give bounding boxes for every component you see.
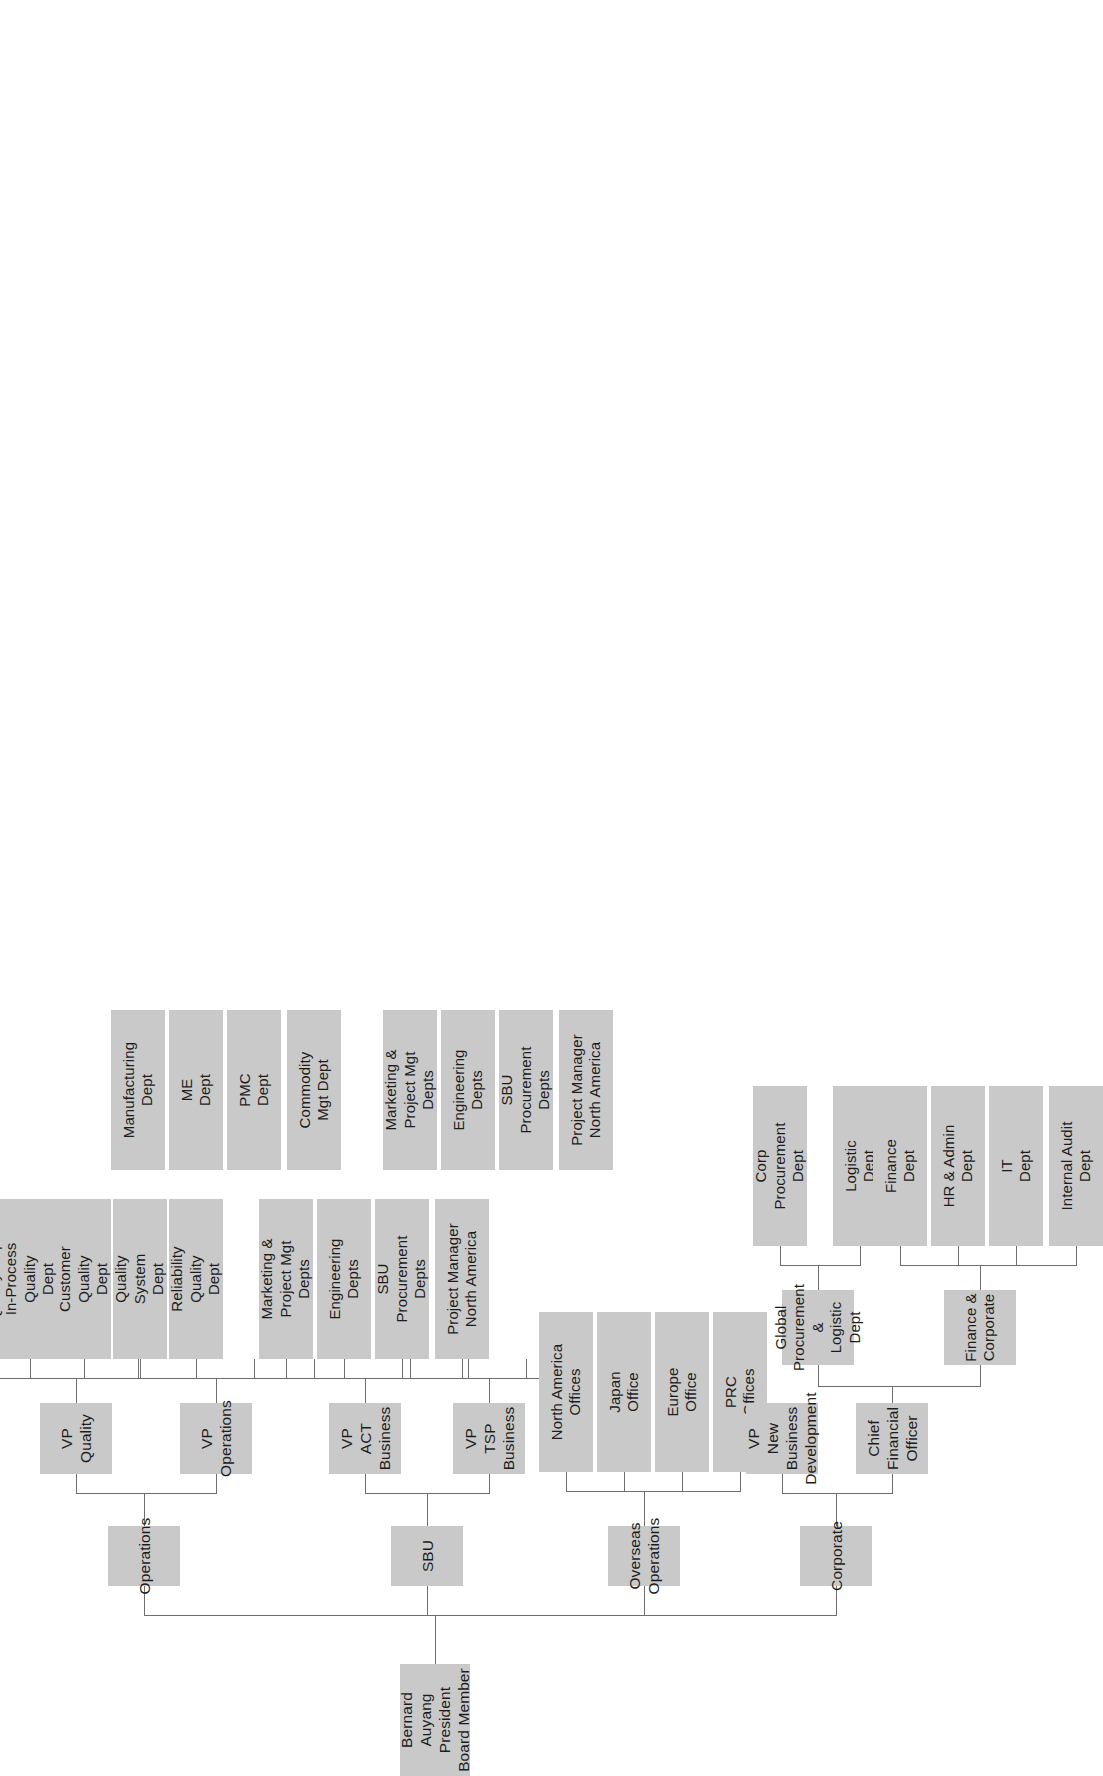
node-vp-tsp-business[interactable]: VP TSP Business	[453, 1403, 525, 1474]
edge-ops-to-quality	[76, 1474, 77, 1494]
node-finance-corporate[interactable]: Finance & Corporate	[944, 1290, 1016, 1365]
edge-global-c2	[860, 1246, 861, 1266]
edge-cfo-bus	[818, 1386, 980, 1387]
edge-fc-c4	[1076, 1246, 1077, 1266]
node-global-procurement-logistic-dept[interactable]: Global Procurement & Logistic Dept	[782, 1290, 854, 1365]
edge-vpq-down	[76, 1379, 77, 1403]
node-tsp-engineering[interactable]: Engineering Depts	[441, 1010, 495, 1170]
edge-global-c1	[780, 1246, 781, 1266]
node-manufacturing-department[interactable]: Manufacturing Dept	[111, 1010, 165, 1170]
node-commodity-mgt-dept[interactable]: Commodity Mgt Dept	[287, 1010, 341, 1170]
node-north-america-offices[interactable]: North America Offices	[539, 1312, 593, 1472]
node-internal-audit-dept[interactable]: Internal Audit Dept	[1049, 1086, 1103, 1246]
node-tsp-project-manager[interactable]: Project Manager North America	[559, 1010, 613, 1170]
node-chief-financial-officer[interactable]: Chief Financial Officer	[856, 1403, 928, 1474]
edge-global-bus	[780, 1265, 860, 1266]
node-reliability-quality[interactable]: Reliability Quality Dept	[169, 1199, 223, 1359]
edge-ov-c2	[624, 1472, 625, 1492]
node-corp-procurement-dept[interactable]: Corp Procurement Dept	[753, 1086, 807, 1246]
edge-root-to-spine	[435, 1616, 436, 1664]
edge-ops-to-vpops	[216, 1474, 217, 1494]
edge-tsp-c1	[410, 1359, 411, 1379]
node-vp-quality[interactable]: VP Quality	[40, 1403, 112, 1474]
edge-sbu-to-act	[365, 1474, 366, 1494]
edge-fc-c2	[958, 1246, 959, 1266]
edge-act-down	[365, 1379, 366, 1403]
edge-act-c1	[286, 1359, 287, 1379]
edge-spine-main	[144, 1615, 836, 1616]
node-act-project-manager[interactable]: Project Manager North America	[435, 1199, 489, 1359]
node-vp-operations[interactable]: VP Operations	[180, 1403, 252, 1474]
edge-fc-c3	[1016, 1246, 1017, 1266]
edge-sbu-down	[427, 1494, 428, 1526]
edge-cfo-to-financecorp	[980, 1365, 981, 1387]
edge-ov-c4	[740, 1472, 741, 1492]
node-tsp-marketing-box[interactable]: Marketing & Project Mgt Depts	[383, 1010, 437, 1170]
edge-act-c3	[402, 1359, 403, 1379]
edge-sbu-bus	[365, 1493, 489, 1494]
edge-tsp-c2	[468, 1359, 469, 1379]
node-europe-office[interactable]: Europe Office	[655, 1312, 709, 1472]
node-customer-quality[interactable]: Customer Quality Dept	[57, 1199, 111, 1359]
node-operations[interactable]: Operations	[108, 1526, 180, 1586]
edge-financecorp-down	[980, 1266, 981, 1290]
node-me-dept[interactable]: ME Dept	[169, 1010, 223, 1170]
node-act-marketing[interactable]: Marketing & Project Mgt Depts	[259, 1199, 313, 1359]
edge-corporate-to-cfo	[892, 1474, 893, 1494]
edge-sbu-to-tsp	[489, 1474, 490, 1494]
node-pmc-dept[interactable]: PMC Dept	[227, 1010, 281, 1170]
node-hr-admin-dept[interactable]: HR & Admin Dept	[931, 1086, 985, 1246]
edge-vpops-c3	[254, 1359, 255, 1379]
edge-corporate-bus	[782, 1493, 892, 1494]
edge-tsp-down	[489, 1379, 490, 1403]
node-finance-dept[interactable]: Finance Dept	[873, 1086, 927, 1246]
node-it-dept[interactable]: IT Dept	[989, 1086, 1043, 1246]
node-sbu[interactable]: SBU	[391, 1526, 463, 1586]
node-japan-office[interactable]: Japan Office	[597, 1312, 651, 1472]
edge-ov-c3	[682, 1472, 683, 1492]
node-quality-system[interactable]: Quality System Dept	[113, 1199, 167, 1359]
edge-vpq-c4	[140, 1359, 141, 1379]
edge-spine-sbu	[427, 1586, 428, 1616]
edge-act-c4	[462, 1359, 463, 1379]
node-act-sbu-procurement[interactable]: SBU Procurement Depts	[375, 1199, 429, 1359]
edge-vpq-c5	[196, 1359, 197, 1379]
edge-financecorp-bus	[900, 1265, 1076, 1266]
edge-vpq-c2	[30, 1359, 31, 1379]
edge-vpq-c3	[84, 1359, 85, 1379]
node-corporate[interactable]: Corporate	[800, 1526, 872, 1586]
node-vp-new-business-development[interactable]: VP New Business Development	[746, 1403, 818, 1474]
edge-act-c2	[344, 1359, 345, 1379]
node-act-engineering[interactable]: Engineering Depts	[317, 1199, 371, 1359]
edge-operations-bus	[76, 1493, 216, 1494]
edge-vpops-c4	[314, 1359, 315, 1379]
edge-ov-c1	[566, 1472, 567, 1492]
edge-overseas-bus	[566, 1491, 740, 1492]
edge-tsp-c3	[526, 1359, 527, 1379]
node-in-process-quality[interactable]: In-Process Quality Dept	[3, 1199, 57, 1359]
node-tsp-sbu-procurement[interactable]: SBU Procurement Depts	[499, 1010, 553, 1170]
edge-vpops-c1	[138, 1359, 139, 1379]
node-root[interactable]: Bernard Auyang President Board Member	[400, 1664, 470, 1776]
edge-fc-c1	[900, 1246, 901, 1266]
node-overseas-operations[interactable]: Overseas Operations	[608, 1526, 680, 1586]
node-vp-act-business[interactable]: VP ACT Business	[329, 1403, 401, 1474]
